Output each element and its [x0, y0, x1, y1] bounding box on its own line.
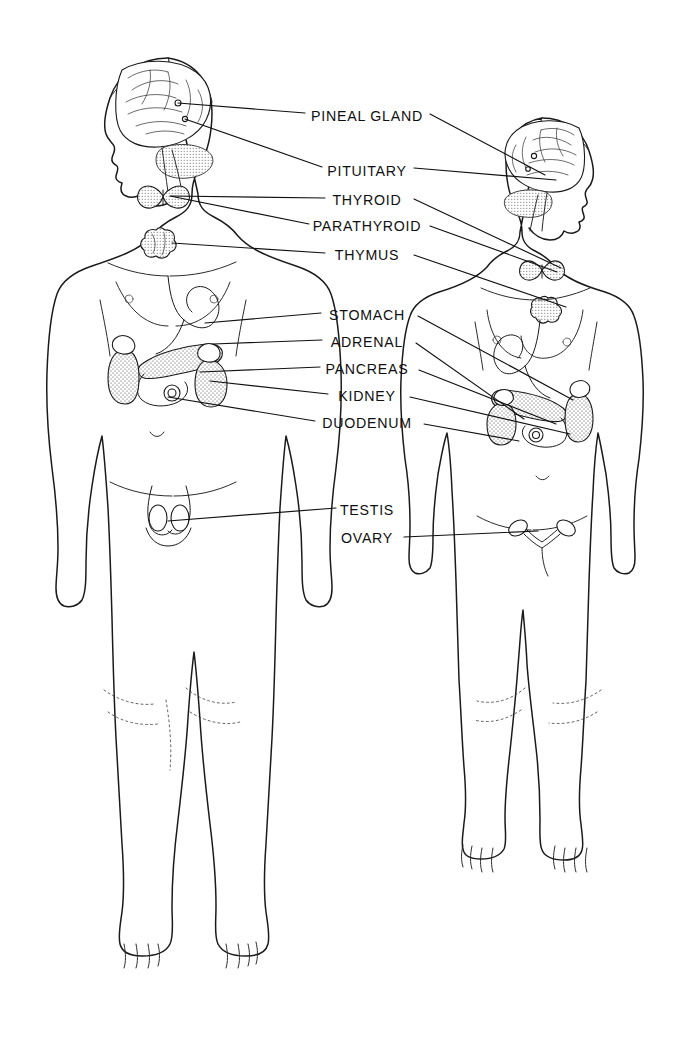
male-kidney-right [195, 360, 227, 407]
label-pituitary: PITUITARY [327, 163, 407, 179]
female-body-outline [401, 118, 644, 860]
female-kidney-left [565, 394, 593, 442]
label-testis: TESTIS [340, 502, 394, 518]
male-figure [47, 58, 342, 968]
male-adrenal-right [198, 344, 220, 363]
male-body-outline [47, 58, 342, 956]
label-parathyroid: PARATHYROID [313, 218, 422, 234]
label-thyroid: THYROID [332, 192, 401, 208]
female-pineal-gland [531, 153, 536, 158]
female-kidney-right [487, 403, 516, 445]
female-adrenal-left [570, 381, 590, 398]
label-duodenum: DUODENUM [322, 415, 412, 431]
label-pancreas: PANCREAS [326, 361, 409, 377]
anatomy-illustration [0, 0, 697, 1041]
male-kidney-left [108, 350, 139, 404]
diagram-canvas: PINEAL GLANDPITUITARYTHYROIDPARATHYROIDT… [0, 0, 697, 1041]
label-stomach: STOMACH [329, 307, 405, 323]
label-adrenal: ADRENAL [331, 334, 403, 350]
label-ovary: OVARY [341, 530, 393, 546]
label-thymus: THYMUS [335, 247, 399, 263]
female-figure [401, 118, 644, 872]
male-adrenal-left [112, 336, 134, 355]
label-pineal-gland: PINEAL GLAND [311, 108, 423, 124]
female-duodenum-ring-inner [533, 432, 540, 439]
male-duodenum-ring-inner [168, 389, 176, 397]
male-cerebellum [156, 144, 213, 178]
label-kidney: KIDNEY [338, 388, 395, 404]
